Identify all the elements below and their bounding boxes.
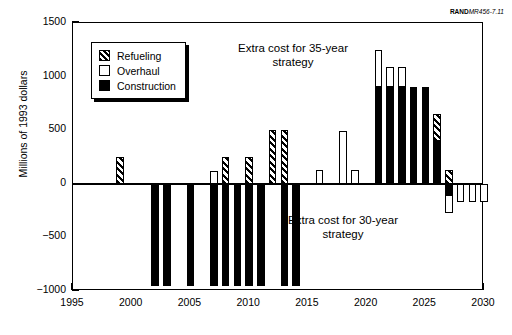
- bar-refueling-1999: [116, 157, 124, 184]
- bar-construction-2008: [222, 184, 230, 286]
- y-tick-label: −500: [30, 229, 66, 241]
- bar-overhaul-2030: [480, 184, 488, 202]
- bar-refueling-2010: [245, 157, 253, 184]
- bar-refueling-2012: [269, 130, 277, 184]
- bar-refueling-2008: [222, 157, 230, 184]
- y-tick-label: 1500: [30, 15, 66, 27]
- x-tick-label: 2030: [458, 296, 508, 308]
- bar-construction-2022: [386, 87, 394, 183]
- bar-overhaul-2018: [339, 131, 347, 184]
- bar-refueling-2026: [433, 114, 441, 141]
- bar-construction-2010: [245, 184, 253, 286]
- bar-refueling-2027: [445, 170, 453, 184]
- y-axis-label: Millions of 1993 dollars: [17, 49, 29, 199]
- bar-construction-2021: [375, 87, 383, 183]
- legend-item-overhaul: Overhaul: [99, 63, 176, 78]
- chart-figure: RANDMR456-7.11 Millions of 1993 dollars …: [0, 0, 512, 335]
- legend-label: Overhaul: [117, 65, 160, 77]
- legend-item-construction: Construction: [99, 78, 176, 93]
- x-tick-label: 2000: [106, 296, 156, 308]
- bar-construction-2023: [398, 87, 406, 183]
- legend-label: Refueling: [117, 50, 161, 62]
- bar-overhaul-2016: [316, 170, 324, 184]
- bar-construction-2003: [163, 184, 171, 286]
- x-tick-label: 2010: [223, 296, 273, 308]
- rand-doc-id: MR456-7.11: [469, 8, 504, 15]
- bar-overhaul-2019: [351, 170, 359, 184]
- bar-construction-2025: [422, 87, 430, 183]
- chart-legend: RefuelingOverhaulConstruction: [91, 42, 186, 99]
- bar-construction-2027: [445, 184, 453, 195]
- bar-construction-2026: [433, 141, 441, 184]
- annotation-30-year: Extra cost for 30-year strategy: [253, 213, 433, 242]
- y-tick-label: 500: [30, 122, 66, 134]
- bar-overhaul-2007: [210, 171, 218, 184]
- bar-overhaul-2029: [469, 184, 477, 202]
- bar-overhaul-2027: [445, 195, 453, 213]
- construction-swatch-icon: [99, 80, 110, 91]
- x-tick-label: 2020: [341, 296, 391, 308]
- bar-construction-2002: [151, 184, 159, 286]
- bar-overhaul-2028: [457, 184, 465, 202]
- bar-construction-2024: [410, 87, 418, 183]
- bar-construction-2009: [234, 184, 242, 286]
- rand-document-credit: RANDMR456-7.11: [450, 8, 504, 15]
- legend-item-refueling: Refueling: [99, 48, 176, 63]
- x-tick-label: 2015: [282, 296, 332, 308]
- y-tick-label: −1000: [30, 283, 66, 295]
- bar-construction-2005: [187, 184, 195, 286]
- x-tick-label: 2005: [164, 296, 214, 308]
- bar-construction-2007: [210, 184, 218, 286]
- y-tick-label: 0: [30, 176, 66, 188]
- x-tick-label: 2025: [399, 296, 449, 308]
- bar-refueling-2013: [281, 130, 289, 184]
- plot-area: RefuelingOverhaulConstruction Extra cost…: [72, 22, 483, 290]
- bar-overhaul-2021: [375, 50, 383, 88]
- bar-overhaul-2023: [398, 67, 406, 87]
- y-tick-label: 1000: [30, 69, 66, 81]
- overhaul-swatch-icon: [99, 65, 110, 76]
- rand-brand: RAND: [450, 8, 469, 15]
- refueling-swatch-icon: [99, 50, 110, 61]
- bar-overhaul-2022: [386, 67, 394, 87]
- annotation-35-year: Extra cost for 35-year strategy: [213, 41, 373, 70]
- x-tick-label: 1995: [47, 296, 97, 308]
- legend-label: Construction: [117, 80, 176, 92]
